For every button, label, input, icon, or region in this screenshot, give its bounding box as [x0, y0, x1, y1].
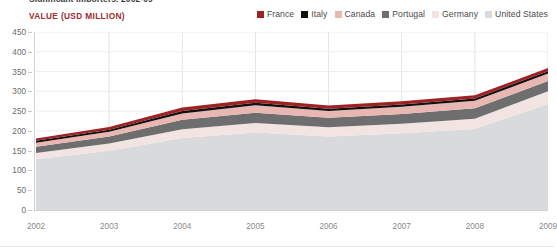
y-tick-label: 150: [12, 146, 26, 155]
y-tick-mark: [28, 32, 32, 33]
chart-headline: Significant Importers, 2002-09: [29, 0, 153, 2]
stacked-area-svg: [36, 32, 548, 210]
legend-swatch-canada: [335, 11, 342, 18]
y-axis-line: [34, 32, 35, 211]
y-tick-mark: [28, 210, 32, 211]
y-tick-label: 350: [12, 67, 26, 76]
y-tick-mark: [28, 151, 32, 152]
y-tick-mark: [28, 190, 32, 191]
y-tick-mark: [28, 91, 32, 92]
y-tick-label: 250: [12, 107, 26, 116]
x-tick-label: 2005: [246, 222, 264, 231]
bottom-divider: [0, 246, 554, 247]
legend-item-united-states[interactable]: United States: [485, 10, 548, 19]
legend-item-canada[interactable]: Canada: [335, 10, 376, 19]
x-axis-line: [34, 210, 548, 211]
legend-label-france: France: [267, 10, 294, 19]
legend-label-germany: Germany: [442, 10, 478, 19]
legend-swatch-germany: [432, 11, 439, 18]
legend-swatch-italy: [301, 11, 308, 18]
value-axis-caption: VALUE (USD MILLION): [29, 11, 125, 21]
legend-label-united-states: United States: [495, 10, 548, 19]
y-tick-mark: [28, 52, 32, 53]
legend-swatch-united-states: [485, 11, 492, 18]
y-tick-label: 50: [17, 186, 26, 195]
chart-legend: France Italy Canada Portugal Germany Uni…: [257, 10, 548, 19]
y-tick-label: 200: [12, 126, 26, 135]
y-tick-mark: [28, 131, 32, 132]
x-tick-label: 2008: [466, 222, 484, 231]
y-tick-label: 0: [21, 206, 26, 215]
x-tick-label: 2003: [100, 222, 118, 231]
x-axis-ticks: 20022003200420052006200720082009: [36, 222, 548, 236]
y-tick-label: 400: [12, 47, 26, 56]
y-tick-mark: [28, 111, 32, 112]
x-tick-label: 2007: [393, 222, 411, 231]
legend-item-italy[interactable]: Italy: [301, 10, 327, 19]
y-tick-mark: [28, 72, 32, 73]
x-tick-label: 2002: [27, 222, 45, 231]
y-tick-label: 450: [12, 28, 26, 37]
y-tick-label: 100: [12, 166, 26, 175]
legend-item-germany[interactable]: Germany: [432, 10, 478, 19]
x-tick-label: 2009: [539, 222, 557, 231]
x-tick-label: 2006: [319, 222, 337, 231]
plot-area: [36, 32, 548, 210]
x-tick-label: 2004: [173, 222, 191, 231]
legend-label-portugal: Portugal: [392, 10, 425, 19]
legend-swatch-portugal: [382, 11, 389, 18]
legend-label-canada: Canada: [345, 10, 376, 19]
legend-swatch-france: [257, 11, 264, 18]
y-tick-mark: [28, 170, 32, 171]
y-tick-label: 300: [12, 87, 26, 96]
legend-item-portugal[interactable]: Portugal: [382, 10, 425, 19]
y-axis: 050100150200250300350400450: [0, 32, 34, 210]
legend-item-france[interactable]: France: [257, 10, 294, 19]
legend-label-italy: Italy: [311, 10, 327, 19]
